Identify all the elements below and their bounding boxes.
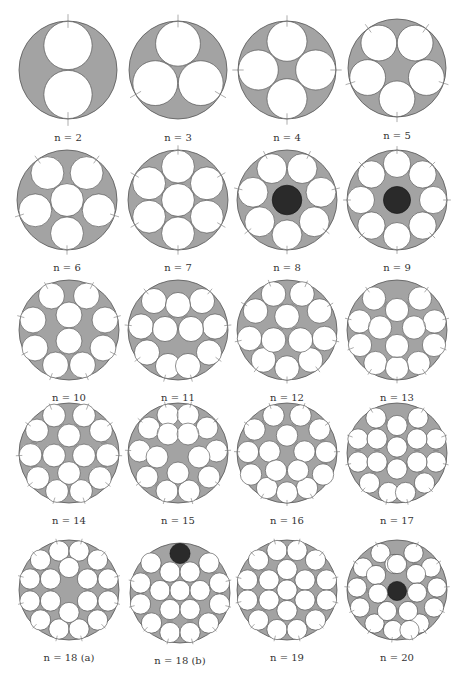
packed-circle <box>426 452 446 472</box>
packed-circle <box>408 287 431 310</box>
packed-circle <box>259 590 279 610</box>
packed-circle <box>177 423 199 445</box>
packed-circle <box>162 217 195 250</box>
packing-diagram <box>122 144 234 256</box>
packing-panel: n = 12 <box>231 274 343 404</box>
panel-label: n = 4 <box>231 132 343 143</box>
packed-circle <box>267 79 307 119</box>
packed-circle <box>199 553 219 573</box>
packed-circle <box>134 340 159 365</box>
packed-circle <box>414 473 434 493</box>
packed-circle <box>404 543 423 562</box>
packed-circle <box>196 417 218 439</box>
packed-circle <box>407 583 426 602</box>
packing-panel: n = 16 <box>231 397 343 527</box>
packed-circle <box>366 408 386 428</box>
packed-circle <box>202 314 227 339</box>
packed-circle <box>58 424 81 447</box>
packing-diagram <box>122 274 234 386</box>
packed-circle <box>56 328 82 354</box>
packed-circle <box>287 460 308 481</box>
panel-label: n = 17 <box>341 515 453 526</box>
packing-panel: n = 14 <box>13 397 125 527</box>
packed-circle <box>237 570 257 590</box>
packed-circle <box>361 25 397 61</box>
packed-circle <box>275 304 299 328</box>
packed-circle <box>40 591 60 611</box>
packed-circle <box>368 316 391 339</box>
packed-circle <box>98 569 118 589</box>
packing-diagram <box>13 397 125 509</box>
packed-circle <box>407 351 430 374</box>
packed-circle <box>295 590 315 610</box>
packed-circle <box>51 217 84 250</box>
packing-panel: n = 11 <box>122 274 234 404</box>
packed-circle <box>178 61 223 106</box>
packed-circle <box>379 81 415 117</box>
packing-diagram <box>13 534 125 646</box>
panel-label: n = 19 <box>231 652 343 663</box>
packed-circle <box>387 554 406 573</box>
packed-circle <box>98 591 118 611</box>
packed-circle <box>427 578 446 597</box>
packing-diagram <box>341 397 453 509</box>
packed-circle <box>276 425 297 446</box>
packed-circle <box>162 150 195 183</box>
packing-panel: n = 8 <box>231 144 343 274</box>
packed-circle <box>31 157 64 190</box>
packed-circle <box>180 599 200 619</box>
packed-circle <box>407 452 427 472</box>
packed-circle <box>198 466 220 488</box>
packed-circle <box>133 200 166 233</box>
packed-circle <box>348 310 371 333</box>
packed-circle <box>359 473 379 493</box>
packed-circle <box>177 404 199 426</box>
packed-circle <box>347 186 374 213</box>
packed-circle <box>96 444 119 467</box>
packed-circle <box>170 580 190 600</box>
packed-circle <box>141 553 161 573</box>
packed-circle <box>190 167 223 200</box>
packed-circle <box>209 594 229 614</box>
packed-circle <box>175 353 200 378</box>
panel-label: n = 9 <box>341 262 453 273</box>
packing-diagram <box>231 534 343 646</box>
packing-panel: n = 4 <box>231 14 343 144</box>
packing-panel: n = 9 <box>341 144 453 274</box>
packed-circle <box>128 314 153 339</box>
panel-label: n = 18 (a) <box>13 652 125 663</box>
packed-circle <box>383 150 410 177</box>
packed-circle <box>189 288 214 313</box>
packed-circle <box>422 333 445 356</box>
panel-label: n = 7 <box>122 262 234 273</box>
packed-circle <box>299 207 329 237</box>
packed-circle <box>152 316 177 341</box>
panel-label: n = 14 <box>13 515 125 526</box>
packed-circle <box>259 570 279 590</box>
packed-circle <box>244 419 265 440</box>
packed-circle <box>92 307 118 333</box>
packed-circle <box>267 540 287 560</box>
packing-diagram <box>231 144 343 256</box>
packed-circle <box>138 417 160 439</box>
packed-circle <box>157 404 179 426</box>
packed-circle <box>209 573 229 593</box>
packed-circle <box>316 590 336 610</box>
packed-circle <box>368 584 387 603</box>
packed-circle <box>348 429 368 449</box>
panel-label: n = 20 <box>341 652 453 663</box>
packed-circle <box>290 405 311 426</box>
packed-circle <box>130 594 150 614</box>
rattler-circle <box>387 581 406 600</box>
packed-circle <box>19 194 52 227</box>
packed-circle <box>294 441 315 462</box>
packed-circle <box>408 408 428 428</box>
packed-circle <box>146 446 168 468</box>
packed-circle <box>238 50 278 90</box>
packed-circle <box>383 223 410 250</box>
packed-circle <box>51 184 84 217</box>
packed-circle <box>408 60 444 96</box>
packed-circle <box>77 591 97 611</box>
panel-label: n = 15 <box>122 515 234 526</box>
packed-circle <box>296 50 336 90</box>
